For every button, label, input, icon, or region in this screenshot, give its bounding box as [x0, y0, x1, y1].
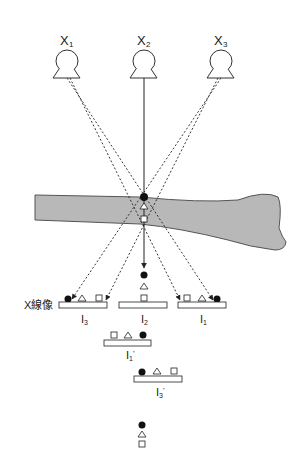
bone-shape — [35, 194, 286, 250]
svg-text:2: 2 — [144, 319, 148, 326]
svg-text:2: 2 — [146, 40, 151, 49]
rays-x3 — [72, 78, 221, 300]
source-x2: X 2 — [130, 33, 157, 78]
svg-text:': ' — [133, 349, 135, 358]
svg-text:3: 3 — [84, 319, 88, 326]
rays-x1 — [67, 78, 213, 300]
source-x3: X 3 — [207, 33, 234, 78]
x-ray-tomography-diagram: X 1 X 2 X 3 X線像 I 3 — [0, 0, 307, 454]
reconstructed-objects — [138, 422, 146, 448]
x-ray-image-label: X線像 — [24, 298, 53, 311]
plate-i1-prime: I 1 ' — [104, 332, 151, 363]
circle-object — [140, 193, 148, 201]
plate-i3-prime: I 3 ' — [134, 368, 182, 399]
svg-text:1: 1 — [203, 319, 207, 326]
svg-text:': ' — [163, 386, 165, 395]
source-label: X — [214, 33, 223, 48]
square-object — [141, 216, 147, 222]
svg-text:1: 1 — [69, 40, 74, 49]
plate-i2: I 2 — [119, 272, 167, 327]
source-label: X — [60, 33, 69, 48]
objects-in-bone — [140, 193, 148, 222]
svg-text:3: 3 — [223, 40, 228, 49]
plate-i1: I 1 — [178, 295, 226, 326]
source-label: X — [137, 33, 146, 48]
source-x1: X 1 — [53, 33, 80, 78]
plate-i3: I 3 — [59, 295, 107, 326]
